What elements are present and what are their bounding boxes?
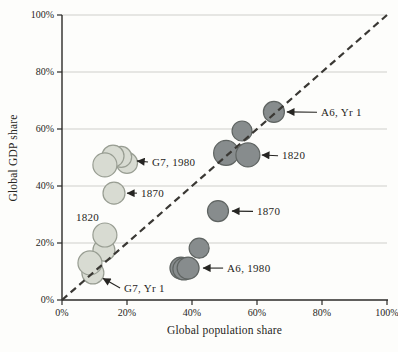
x-axis-title: Global population share xyxy=(62,324,387,336)
annotation-label: A6, Yr 1 xyxy=(321,106,362,118)
annotation-arrow xyxy=(137,161,148,162)
data-point-a6 xyxy=(232,121,252,141)
data-point-g7 xyxy=(78,251,102,275)
x-tick-label: 60% xyxy=(248,307,266,318)
annotation-label: 1820 xyxy=(76,211,99,223)
chart-canvas: 0%20%40%60%80%100%0%20%40%60%80%100%A6, … xyxy=(0,0,398,352)
x-tick-label: 0% xyxy=(55,307,68,318)
y-tick-label: 80% xyxy=(36,66,54,77)
y-tick-label: 40% xyxy=(36,180,54,191)
annotation-label: 1870 xyxy=(141,187,164,199)
annotation-label: A6, 1980 xyxy=(227,262,271,274)
data-point-a6 xyxy=(208,201,229,222)
scatter-chart-figure: 0%20%40%60%80%100%0%20%40%60%80%100%A6, … xyxy=(0,0,398,352)
data-point-a6 xyxy=(189,238,209,258)
y-tick-label: 60% xyxy=(36,123,54,134)
data-point-a6 xyxy=(214,140,239,165)
x-tick-label: 100% xyxy=(375,307,398,318)
x-tick-label: 20% xyxy=(118,307,136,318)
annotation-arrow xyxy=(103,278,120,288)
annotation-arrow xyxy=(262,155,278,156)
annotation-label: 1820 xyxy=(282,149,305,161)
y-tick-label: 0% xyxy=(41,294,54,305)
data-point-g7 xyxy=(93,223,117,247)
data-point-a6 xyxy=(177,257,199,279)
y-tick-label: 100% xyxy=(31,9,54,20)
x-tick-label: 40% xyxy=(183,307,201,318)
annotation-label: G7, Yr 1 xyxy=(124,282,165,294)
y-axis-title: Global GDP share xyxy=(7,114,19,201)
annotation-label: G7, 1980 xyxy=(152,156,196,168)
data-point-g7 xyxy=(103,182,125,204)
data-point-a6 xyxy=(236,143,260,167)
data-point-g7 xyxy=(93,153,117,177)
annotation-label: 1870 xyxy=(257,205,280,217)
data-point-a6 xyxy=(263,101,284,122)
x-tick-label: 80% xyxy=(313,307,331,318)
y-tick-label: 20% xyxy=(36,237,54,248)
